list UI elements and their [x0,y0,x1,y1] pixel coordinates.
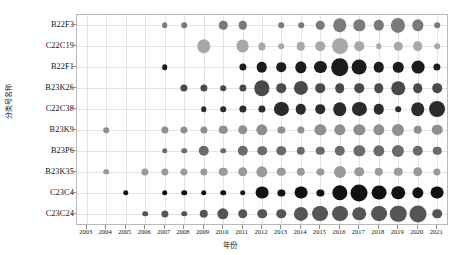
x-axis-tick-label: 2015 [313,228,326,235]
y-axis-tick-mark [71,150,76,151]
x-axis-tick-label: 2005 [118,228,131,235]
x-axis-tick-label: 2017 [352,228,365,235]
x-axis-tick-label: 2011 [235,228,248,235]
y-axis-tick-mark [71,24,76,25]
y-axis-tick-mark [71,66,76,67]
x-axis-tick-mark [339,225,340,229]
x-axis-tick-mark [242,225,243,229]
y-axis-tick-mark [71,87,76,88]
x-axis-tick-mark [436,225,437,229]
x-axis-tick-mark [86,225,87,229]
bubble-chart: 分类号名称 B22F3C22C19B22F1B23K26C22C38B23K9B… [0,0,459,255]
x-axis-tick-label: 2012 [255,228,268,235]
y-axis-tick-mark [71,45,76,46]
y-axis-tick-mark [71,192,76,193]
x-axis-tick-mark [261,225,262,229]
x-axis-tick-mark [280,225,281,229]
x-axis-tick-label: 2004 [99,228,112,235]
x-axis-tick-mark [319,225,320,229]
x-axis-tick-label: 2020 [410,228,423,235]
x-axis-tick-mark [125,225,126,229]
y-axis-tick-mark [71,129,76,130]
x-axis-tick-mark [417,225,418,229]
x-axis-tick-mark [164,225,165,229]
x-axis-tick-label: 2019 [391,228,404,235]
x-axis-tick-mark [378,225,379,229]
x-axis-tick-mark [105,225,106,229]
x-axis-tick-label: 2016 [332,228,345,235]
x-axis-tick-mark [358,225,359,229]
x-axis-tick-label: 2003 [79,228,92,235]
x-axis-tick-label: 2013 [274,228,287,235]
y-axis-tick-mark [71,213,76,214]
x-axis-tick-label: 2008 [177,228,190,235]
x-axis-tick-label: 2006 [138,228,151,235]
x-axis-tick-label: 2009 [196,228,209,235]
x-axis-tick-label: 2018 [371,228,384,235]
x-axis-tick-mark [222,225,223,229]
x-axis-tick-mark [144,225,145,229]
y-axis-tick-mark [71,108,76,109]
x-axis-title: 年份 [0,239,459,250]
x-axis-tick-label: 2010 [216,228,229,235]
x-axis-tick-label: 2007 [157,228,170,235]
x-axis-tick-mark [183,225,184,229]
x-axis-tick-mark [203,225,204,229]
x-axis-tick-label: 2021 [430,228,443,235]
x-axis-tick-mark [397,225,398,229]
x-axis-tick-labels: 2003200420052006200720082009201020112012… [0,0,459,255]
x-axis-tick-mark [300,225,301,229]
y-axis-tick-mark [71,171,76,172]
x-axis-tick-label: 2014 [293,228,306,235]
